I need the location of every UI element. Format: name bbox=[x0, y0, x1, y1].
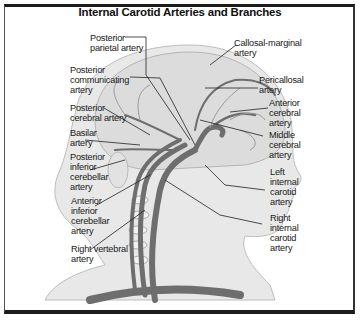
label-posterior-cerebral-artery: Posterior cerebral artery bbox=[70, 103, 126, 123]
label-left-internal-carotid-artery: Left internal carotid artery bbox=[270, 167, 299, 207]
label-right-internal-carotid-artery: Right internal carotid artery bbox=[270, 213, 299, 253]
label-pericallosal-artery: Pericallosal artery bbox=[259, 75, 304, 95]
label-middle-cerebral-artery: Middle cerebral artery bbox=[269, 130, 301, 160]
label-right-vertebral-artery: Right vertebral artery bbox=[71, 244, 128, 264]
label-anterior-cerebral-artery: Anterior cerebral artery bbox=[269, 98, 301, 128]
head-artery-illustration bbox=[0, 0, 360, 325]
label-anterior-inferior-cerebellar-artery: Anterior inferior cerebellar artery bbox=[71, 196, 109, 236]
label-posterior-communicating-artery: Posterior communicating artery bbox=[70, 65, 129, 95]
label-posterior-parietal-artery: Posterior parietal artery bbox=[90, 33, 143, 53]
label-posterior-inferior-cerebellar-artery: Posterior inferior cerebellar artery bbox=[70, 152, 108, 192]
label-callosal-marginal-artery: Callosal-marginal artery bbox=[234, 38, 302, 58]
ear bbox=[108, 152, 128, 188]
label-basilar-artery: Basilar artery bbox=[70, 128, 97, 148]
